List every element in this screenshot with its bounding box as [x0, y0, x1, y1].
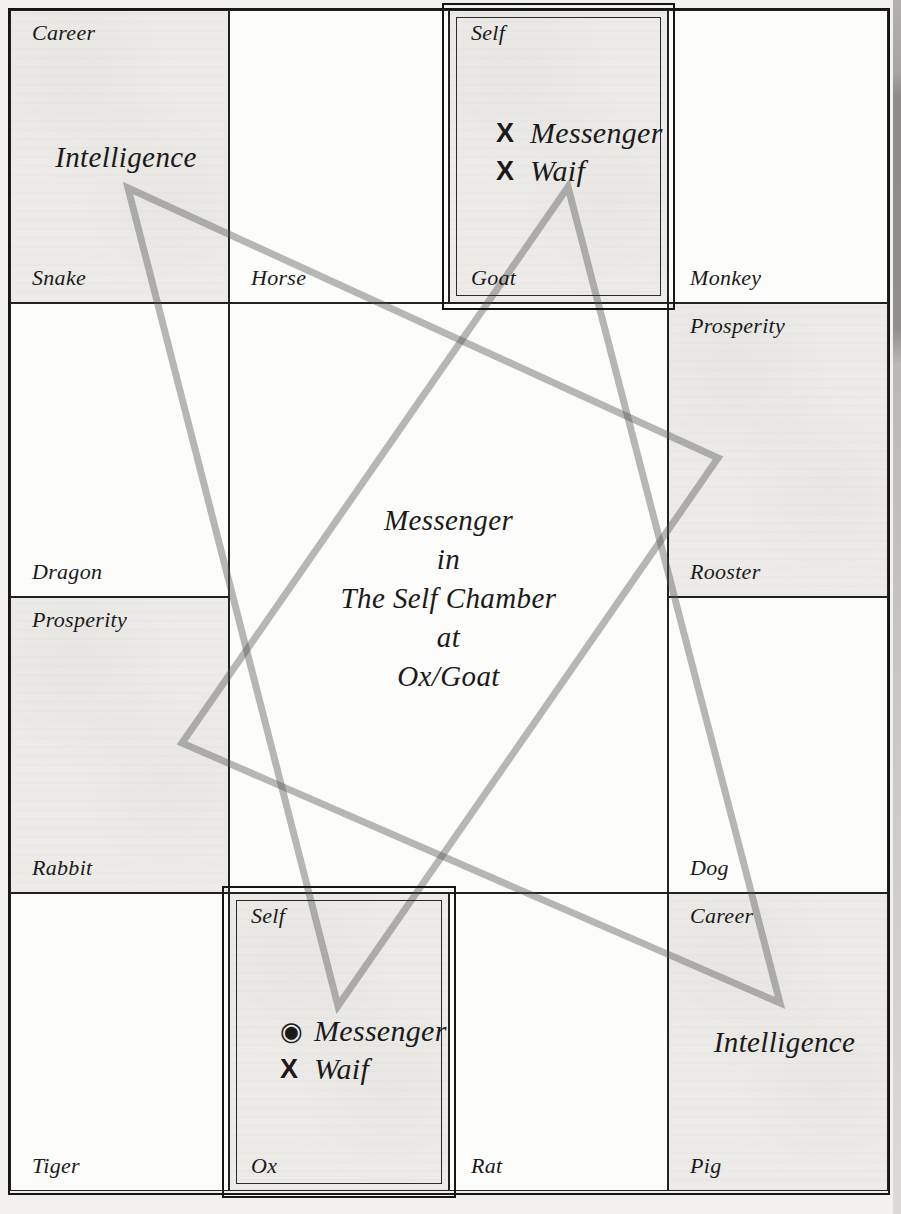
house-label: Self: [471, 20, 505, 46]
palace-pig: Career Intelligence Pig: [668, 893, 888, 1191]
branch-label: Rooster: [690, 559, 761, 585]
x-mark-icon: X: [496, 118, 530, 149]
palace-goat: Self X Messenger X Waif Goat: [449, 10, 668, 303]
branch-label: Rat: [471, 1153, 502, 1179]
palace-dog: Dog: [668, 597, 888, 893]
center-title-panel: Messenger in The Self Chamber at Ox/Goat: [229, 303, 668, 893]
branch-label: Ox: [251, 1153, 277, 1179]
house-label: Self: [251, 903, 285, 929]
center-title-line: Ox/Goat: [397, 657, 500, 696]
branch-label: Horse: [251, 265, 306, 291]
center-title-line: at: [437, 618, 460, 657]
bullseye-icon: ◉: [280, 1018, 314, 1044]
star-list: ◉ Messenger X Waif: [280, 1012, 447, 1088]
palace-rat: Rat: [449, 893, 668, 1191]
palace-rabbit: Prosperity Rabbit: [10, 597, 229, 893]
palace-monkey: Monkey: [668, 10, 888, 303]
branch-label: Monkey: [690, 265, 761, 291]
astrology-palace-grid: Career Intelligence Snake Horse Self X M…: [8, 8, 890, 1195]
star-row: X Waif: [496, 152, 663, 190]
palace-horse: Horse: [229, 10, 449, 303]
palace-dragon: Dragon: [10, 303, 229, 597]
star-list: X Messenger X Waif: [496, 114, 663, 190]
star-row: ◉ Messenger: [280, 1012, 447, 1050]
center-title-line: Messenger: [384, 501, 513, 540]
palace-rooster: Prosperity Rooster: [668, 303, 888, 597]
house-label: Career: [690, 903, 753, 929]
palace-ox: Self ◉ Messenger X Waif Ox: [229, 893, 449, 1191]
star-name: Messenger: [314, 1014, 447, 1048]
book-page-scan: Career Intelligence Snake Horse Self X M…: [0, 0, 901, 1214]
house-big-label: Intelligence: [714, 1026, 856, 1059]
branch-label: Snake: [32, 265, 86, 291]
star-name: Waif: [314, 1052, 369, 1086]
branch-label: Rabbit: [32, 855, 92, 881]
star-name: Messenger: [530, 116, 663, 150]
center-title-line: The Self Chamber: [341, 579, 557, 618]
palace-snake: Career Intelligence Snake: [10, 10, 229, 303]
branch-label: Tiger: [32, 1153, 80, 1179]
house-label: Prosperity: [32, 607, 127, 633]
house-big-label: Intelligence: [55, 140, 197, 173]
star-row: X Waif: [280, 1050, 447, 1088]
star-row: X Messenger: [496, 114, 663, 152]
palace-tiger: Tiger: [10, 893, 229, 1191]
branch-label: Dog: [690, 855, 729, 881]
house-label: Career: [32, 20, 95, 46]
star-name: Waif: [530, 154, 585, 188]
center-title-line: in: [437, 540, 460, 579]
branch-label: Goat: [471, 265, 516, 291]
house-label: Prosperity: [690, 313, 785, 339]
page-edge-shadow: [893, 0, 901, 1214]
x-mark-icon: X: [280, 1054, 314, 1085]
x-mark-icon: X: [496, 156, 530, 187]
branch-label: Dragon: [32, 559, 102, 585]
branch-label: Pig: [690, 1153, 721, 1179]
